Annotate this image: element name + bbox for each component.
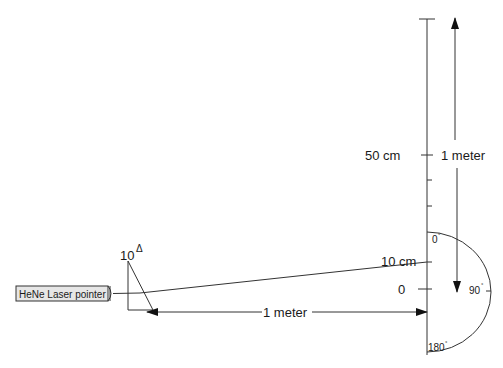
horizontal-distance-arrow: 1 meter [147, 305, 427, 320]
protractor-arc [427, 232, 491, 352]
protractor-label-180: 180 [428, 342, 445, 353]
laser-label: HeNe Laser pointer [19, 289, 106, 300]
degree-symbol: ° [481, 282, 484, 288]
vertical-distance-label: 1 meter [441, 148, 486, 163]
incident-beam [113, 293, 140, 294]
degree-symbol: ° [445, 340, 448, 346]
protractor: 0 ° 90 ° 180 ° [427, 232, 491, 353]
laser-pointer: HeNe Laser pointer [16, 286, 111, 301]
protractor-label-90: 90 [469, 285, 481, 296]
ruler-label-0: 0 [398, 282, 405, 297]
vertical-distance-arrow: 1 meter [441, 18, 486, 292]
vertical-ruler: 50 cm 10 cm 0 [365, 19, 435, 355]
prism: 10 Δ [120, 243, 153, 310]
ruler-label-10cm: 10 cm [381, 254, 416, 269]
prism-diopter-symbol: Δ [136, 243, 143, 254]
ruler-label-50cm: 50 cm [365, 148, 400, 163]
prism-triangle [128, 261, 153, 310]
laser-deviation-diagram: HeNe Laser pointer 10 Δ 1 meter 50 cm 10… [0, 0, 503, 368]
horizontal-distance-label: 1 meter [263, 305, 308, 320]
prism-power: 10 [120, 248, 134, 263]
